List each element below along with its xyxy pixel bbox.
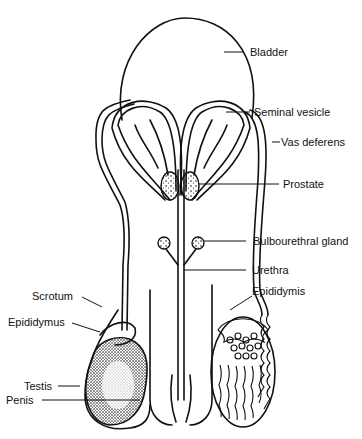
label-prostate: Prostate <box>283 178 324 190</box>
anatomy-drawing <box>0 0 362 439</box>
label-bladder: Bladder <box>250 46 288 58</box>
label-epididymis: Epididymis <box>252 285 305 297</box>
vas-deferens-left <box>96 100 130 330</box>
label-epididymus: Epididymus <box>8 316 65 328</box>
penis-shaft <box>150 290 172 425</box>
label-scrotum: Scrotum <box>32 290 73 302</box>
prostate-left-lobe <box>161 172 179 200</box>
label-urethra: Urethra <box>252 264 289 276</box>
bulbourethral-gland-right <box>192 237 204 249</box>
bulbourethral-gland-left <box>158 237 170 249</box>
label-bulbourethral-gland: Bulbourethral gland <box>253 235 348 247</box>
label-vas-deferens: Vas deferens <box>281 136 345 148</box>
male-reproductive-diagram: Bladder Seminal vesicle Vas deferens Pro… <box>0 0 362 439</box>
label-penis: Penis <box>6 394 34 406</box>
label-testis: Testis <box>24 380 52 392</box>
label-seminal-vesicle: Seminal vesicle <box>254 106 330 118</box>
